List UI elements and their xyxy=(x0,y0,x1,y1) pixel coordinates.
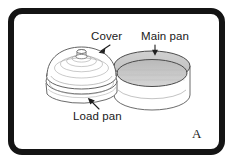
callout-label-load-pan: Load pan xyxy=(73,111,122,123)
panel-letter: A xyxy=(192,127,201,140)
figure-panel: Cover Main pan Load pan A xyxy=(0,0,233,163)
callout-label-cover: Cover xyxy=(91,31,122,43)
callout-label-main-pan: Main pan xyxy=(141,31,189,43)
